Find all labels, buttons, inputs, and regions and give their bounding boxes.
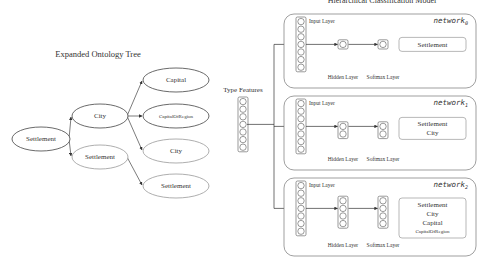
network-name: network1 [433, 98, 468, 108]
neuron-icon [340, 198, 346, 204]
tree-nodes: SettlementCitySettlementCapitalCapitalOf… [12, 68, 209, 198]
neuron-icon [240, 106, 246, 112]
hidden-layer-label: Hidden Layer [328, 242, 359, 248]
neuron-icon [240, 98, 246, 104]
neuron-icon [380, 41, 386, 47]
type-feature-neurons [238, 97, 248, 152]
neuron-icon [340, 131, 346, 137]
neuron-icon [298, 123, 304, 129]
tree-node-capital: Capital [143, 68, 209, 92]
neuron-icon [298, 18, 304, 24]
tree-node-label: City [170, 147, 183, 155]
tree-node-label: CapitalOfRegion [159, 114, 194, 119]
output-classes-box: SettlementCity [399, 117, 466, 139]
neuron-icon [298, 146, 304, 152]
tree-edge-city-capital [127, 81, 142, 116]
softmax-layer-label: Softmax Layer [367, 74, 400, 80]
neuron-icon [298, 228, 304, 234]
input-layer-label: Input Layer [309, 182, 335, 188]
input-layer-label: Input Layer [309, 100, 335, 106]
input-layer-label: Input Layer [309, 18, 335, 24]
output-class-label: City [426, 210, 439, 218]
neuron-icon [298, 64, 304, 70]
tree-node-label: Settlement [26, 135, 56, 143]
neuron-icon [240, 121, 246, 127]
input-layer-neurons [296, 181, 306, 236]
tree-edge-city-city2 [127, 116, 142, 150]
hidden-layer-neurons [338, 196, 348, 228]
neuron-icon [298, 26, 304, 32]
neuron-icon [298, 220, 304, 226]
softmax-layer-label: Softmax Layer [367, 156, 400, 162]
hidden-layer-neurons [338, 40, 348, 49]
neuron-icon [340, 123, 346, 129]
output-class-label: Settlement [418, 201, 448, 209]
neuron-icon [340, 41, 346, 47]
neuron-icon [380, 198, 386, 204]
output-class-label: Capital [422, 219, 442, 227]
neuron-icon [298, 100, 304, 106]
output-class-label: City [426, 129, 439, 137]
output-class-label: CapitalOfRegion [415, 229, 450, 234]
networks: network0Input LayerHidden LayerSoftmax L… [284, 14, 476, 256]
tree-node-label: City [94, 112, 107, 120]
neuron-icon [380, 131, 386, 137]
neuron-icon [298, 108, 304, 114]
softmax-layer-neurons [378, 122, 388, 139]
input-layer-neurons [296, 17, 306, 72]
neuron-icon [298, 116, 304, 122]
neuron-icon [380, 205, 386, 211]
output-classes-box: Settlement [399, 37, 466, 51]
neuron-icon [298, 182, 304, 188]
neuron-icon [340, 213, 346, 219]
network-name: network2 [433, 180, 468, 190]
neuron-icon [298, 34, 304, 40]
tree-node-city: City [72, 104, 128, 128]
softmax-layer-label: Softmax Layer [367, 242, 400, 248]
type-features-label: Type Features [223, 86, 263, 94]
neuron-icon [340, 205, 346, 211]
hidden-layer-label: Hidden Layer [328, 156, 359, 162]
tree-node-settlement3: Settlement [143, 174, 209, 198]
tree-node-city2: City [143, 139, 209, 163]
tree-node-capitalofregion: CapitalOfRegion [143, 104, 209, 128]
neuron-icon [298, 190, 304, 196]
tree-node-label: Settlement [161, 182, 191, 190]
network-1: network1Input LayerHidden LayerSoftmax L… [284, 96, 476, 170]
neuron-icon [380, 123, 386, 129]
hidden-layer-neurons [338, 122, 348, 139]
neuron-icon [380, 213, 386, 219]
neuron-icon [240, 129, 246, 135]
neuron-icon [298, 213, 304, 219]
network-0: network0Input LayerHidden LayerSoftmax L… [284, 14, 476, 88]
hierarchical-classification-diagram: Hierarchical Classification Model Expand… [0, 0, 480, 263]
neuron-icon [240, 136, 246, 142]
neuron-icon [298, 49, 304, 55]
network-2: network2Input LayerHidden LayerSoftmax L… [284, 178, 476, 256]
neuron-icon [340, 220, 346, 226]
output-class-label: Settlement [418, 41, 448, 49]
tree-title: Expanded Ontology Tree [55, 49, 141, 59]
input-layer-neurons [296, 99, 306, 154]
tree-node-label: Settlement [85, 153, 115, 161]
output-classes-box: SettlementCityCapitalCapitalOfRegion [399, 198, 466, 238]
neuron-icon [298, 56, 304, 62]
neuron-icon [240, 114, 246, 120]
tree-node-root: Settlement [12, 127, 70, 151]
tree-node-settlement2: Settlement [72, 145, 128, 169]
neuron-icon [240, 144, 246, 150]
softmax-layer-neurons [378, 196, 388, 228]
neuron-icon [298, 131, 304, 137]
network-name: network0 [433, 16, 468, 26]
diagram-title: Hierarchical Classification Model [328, 0, 437, 5]
neuron-icon [298, 198, 304, 204]
neuron-icon [298, 41, 304, 47]
neuron-icon [380, 220, 386, 226]
output-class-label: Settlement [418, 120, 448, 128]
neuron-icon [298, 138, 304, 144]
softmax-layer-neurons [378, 40, 388, 49]
type-features-vector [238, 97, 248, 152]
tree-edges [69, 81, 142, 185]
hidden-layer-label: Hidden Layer [328, 74, 359, 80]
tree-node-label: Capital [166, 76, 186, 84]
